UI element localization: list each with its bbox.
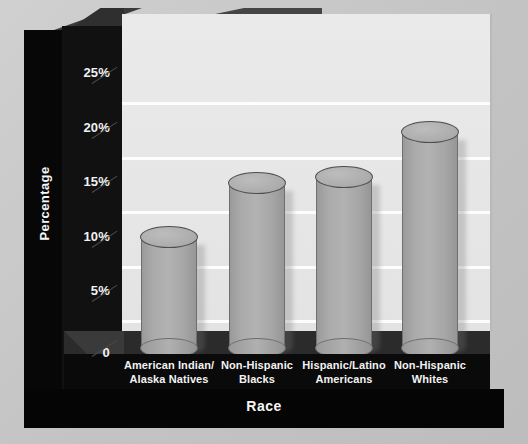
gridline-25	[122, 102, 490, 105]
bar-top-cap	[228, 172, 286, 194]
bar-body	[402, 132, 458, 348]
x-category-label-3: Non-Hispanic Whites	[370, 358, 490, 386]
bar-top-cap	[401, 121, 459, 143]
bar-body	[141, 237, 197, 348]
x-axis-title: Race	[24, 398, 504, 414]
y-tick-label-0: 0	[54, 345, 110, 360]
bar-american-indian-alaska-natives[interactable]	[141, 237, 197, 348]
bar-non-hispanic-whites[interactable]	[402, 132, 458, 348]
bar-body	[316, 177, 372, 348]
bar-top-cap	[315, 166, 373, 188]
bar-top-cap	[140, 226, 198, 248]
bar-hispanic-latino-americans[interactable]	[316, 177, 372, 348]
bar-body	[229, 183, 285, 348]
x-category-line-3-1: Whites	[370, 372, 490, 386]
bar-non-hispanic-blacks[interactable]	[229, 183, 285, 348]
y-axis-title: Percentage	[37, 144, 52, 264]
x-category-line-3-0: Non-Hispanic	[370, 358, 490, 372]
chart-container: 25% 20% 15% 10% 5% 0 Percentage Race Ame…	[0, 0, 528, 444]
